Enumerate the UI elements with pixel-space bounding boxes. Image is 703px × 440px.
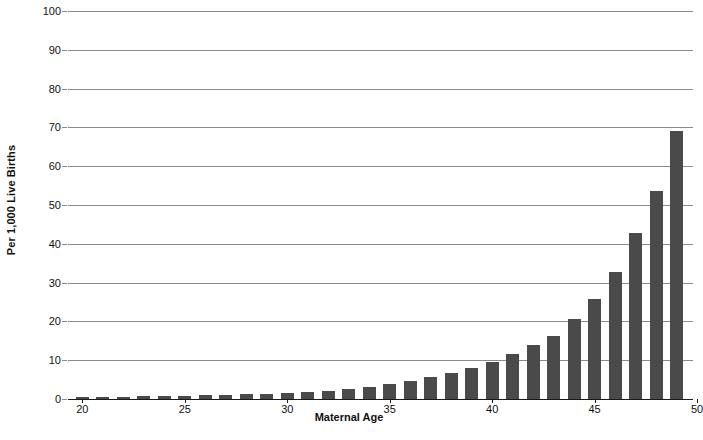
figure-caption <box>0 430 698 440</box>
x-axis-title: Maternal Age <box>0 411 698 423</box>
bar <box>445 373 458 399</box>
bar <box>240 394 253 399</box>
bar <box>568 319 581 399</box>
bar <box>96 397 109 399</box>
y-axis-tick-mark <box>62 89 67 90</box>
bar-series <box>68 11 693 399</box>
y-axis-tick-label: 50 <box>15 200 61 211</box>
bar <box>547 336 560 399</box>
bar <box>527 345 540 399</box>
y-axis-tick-mark <box>62 11 67 12</box>
y-axis-tick-label: 60 <box>15 161 61 172</box>
bar <box>465 368 478 399</box>
bar <box>137 396 150 399</box>
y-axis-tick-mark <box>62 283 67 284</box>
bar <box>260 394 273 399</box>
y-axis-tick-mark <box>62 166 67 167</box>
bar <box>404 381 417 399</box>
y-axis-tick-label: 100 <box>15 6 61 17</box>
bar <box>383 384 396 399</box>
bar <box>588 299 601 399</box>
bar <box>486 362 499 399</box>
y-axis-tick-label: 80 <box>15 83 61 94</box>
bar <box>363 387 376 399</box>
y-axis-tick-mark <box>62 50 67 51</box>
y-axis-tick-mark <box>62 321 67 322</box>
y-axis-tick-label: 90 <box>15 44 61 55</box>
bar <box>629 233 642 399</box>
bar <box>301 392 314 399</box>
bar <box>219 395 232 399</box>
y-axis-tick-label: 70 <box>15 122 61 133</box>
bar <box>609 272 622 399</box>
bar <box>199 395 212 399</box>
bar <box>670 131 683 399</box>
y-axis-tick-mark <box>62 127 67 128</box>
bar <box>650 191 663 399</box>
y-axis-tick-label: 0 <box>15 394 61 405</box>
bar <box>158 396 171 399</box>
bar <box>342 389 355 399</box>
bar <box>424 377 437 399</box>
bar <box>117 397 130 399</box>
bar <box>506 354 519 399</box>
y-axis-tick-label: 30 <box>15 277 61 288</box>
bar <box>322 391 335 399</box>
y-axis-tick-label: 40 <box>15 238 61 249</box>
y-axis-tick-label: 10 <box>15 355 61 366</box>
y-axis-tick-mark <box>62 244 67 245</box>
y-axis-tick-mark <box>62 399 67 400</box>
y-axis-tick-mark <box>62 360 67 361</box>
plot-area: 0102030405060708090100 20253035404550 <box>68 11 693 399</box>
y-axis-tick-mark <box>62 205 67 206</box>
y-axis-tick-label: 20 <box>15 316 61 327</box>
x-axis-line <box>68 399 693 400</box>
